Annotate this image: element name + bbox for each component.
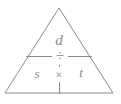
divide-operator-icon: ÷ [52,48,68,65]
label-bottom-left-variable: s [29,67,45,80]
label-bottom-right-variable: t [74,66,88,79]
multiply-operator-icon: × [52,67,66,82]
formula-triangle-figure: d ÷ s × t [0,0,121,104]
label-top-variable: d [48,33,70,48]
